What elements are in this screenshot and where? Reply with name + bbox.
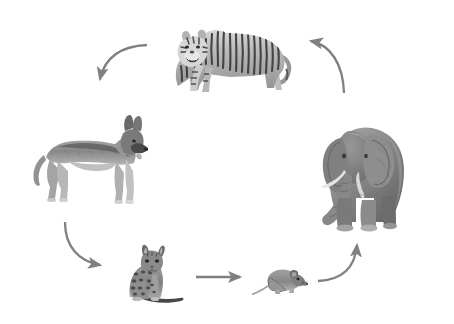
edge-mouse-to-elephant	[318, 245, 357, 281]
mouse-icon	[252, 264, 308, 298]
edge-tiger-to-dog	[100, 45, 147, 79]
tiger-icon	[160, 14, 292, 98]
node-tiger[interactable]	[160, 14, 292, 98]
node-elephant[interactable]	[312, 98, 418, 234]
dog-icon	[28, 113, 148, 207]
elephant-icon	[312, 98, 418, 234]
diagram-canvas: Animal predation cycle	[0, 0, 454, 324]
edge-dog-to-cat	[65, 222, 100, 265]
node-dog[interactable]	[28, 113, 148, 207]
cat-icon	[118, 241, 188, 307]
node-mouse[interactable]	[252, 264, 308, 298]
node-cat[interactable]	[118, 241, 188, 307]
edge-elephant-to-tiger	[311, 41, 344, 93]
